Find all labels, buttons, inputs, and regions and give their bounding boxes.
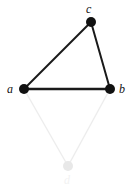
node-label-c: c — [86, 3, 91, 15]
node-d — [63, 161, 73, 171]
node-label-a: a — [7, 83, 13, 95]
node-a — [19, 84, 29, 94]
edge-group-solid — [24, 22, 110, 89]
node-b — [105, 84, 115, 94]
edge-b-d — [68, 89, 110, 166]
edge-group-faded — [24, 89, 110, 166]
node-c — [86, 17, 96, 27]
node-label-b: b — [119, 83, 125, 95]
edge-a-c — [24, 22, 91, 89]
node-group-faded — [63, 161, 73, 171]
node-label-d: d — [64, 174, 70, 186]
edge-a-d — [24, 89, 68, 166]
graph-diagram-figure: a b c d — [0, 0, 137, 194]
edge-c-b — [91, 22, 110, 89]
graph-canvas — [0, 0, 137, 194]
